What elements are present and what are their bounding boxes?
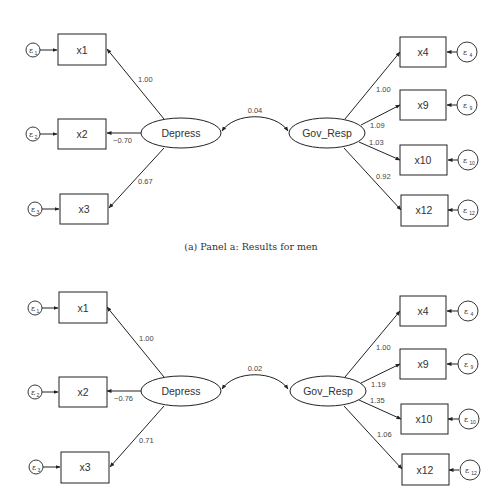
indicator-x12: x12 bbox=[401, 195, 448, 226]
svg-text:1: 1 bbox=[35, 50, 38, 56]
svg-text:x9: x9 bbox=[417, 358, 428, 370]
svg-text:12: 12 bbox=[469, 210, 475, 216]
indicator-x4: x4 bbox=[400, 296, 446, 326]
svg-text:9: 9 bbox=[470, 105, 473, 111]
svg-text:x12: x12 bbox=[417, 464, 434, 476]
svg-text:ε: ε bbox=[464, 415, 468, 424]
loading-x4: 1.00 bbox=[376, 85, 391, 94]
path-depress-x3 bbox=[109, 148, 164, 208]
error-e9: ε 9 bbox=[457, 95, 477, 115]
indicator-x3: x3 bbox=[60, 194, 108, 224]
error-e2: ε 2 bbox=[28, 385, 42, 399]
svg-text:ε: ε bbox=[463, 101, 467, 110]
svg-text:x2: x2 bbox=[77, 386, 88, 398]
indicator-x9: x9 bbox=[400, 349, 446, 379]
loading-x12: 0.92 bbox=[376, 172, 391, 181]
svg-text:4: 4 bbox=[470, 52, 473, 58]
panel-a-caption: (a) Panel a: Results for men bbox=[184, 241, 317, 252]
loading-x3: 0.67 bbox=[138, 177, 153, 186]
indicator-x10: x10 bbox=[400, 145, 447, 175]
latent-gov-resp-label: Gov_Resp bbox=[302, 127, 352, 139]
error-e4: ε 4 bbox=[458, 301, 478, 321]
svg-text:ε: ε bbox=[31, 388, 35, 397]
covariance-value: 0.02 bbox=[248, 364, 263, 373]
svg-text:9: 9 bbox=[471, 364, 474, 370]
loading-x2: −0.70 bbox=[113, 136, 132, 145]
error-e12: ε 12 bbox=[460, 460, 480, 480]
svg-text:10: 10 bbox=[470, 419, 476, 425]
path-depress-x1 bbox=[107, 49, 164, 119]
indicator-x10: x10 bbox=[401, 404, 448, 434]
latent-depress: Depress bbox=[141, 376, 221, 406]
svg-text:ε: ε bbox=[464, 307, 468, 316]
indicator-x1: x1 bbox=[59, 292, 107, 323]
svg-text:2: 2 bbox=[37, 392, 40, 398]
loading-x1: 1.00 bbox=[139, 334, 154, 343]
svg-text:x2: x2 bbox=[76, 128, 87, 140]
svg-text:x9: x9 bbox=[417, 99, 428, 111]
loading-x10: 1.03 bbox=[369, 138, 384, 147]
svg-text:3: 3 bbox=[38, 467, 41, 473]
path-depress-x1 bbox=[107, 307, 164, 377]
svg-text:10: 10 bbox=[469, 160, 475, 166]
indicator-x9: x9 bbox=[400, 90, 446, 120]
loading-x4: 1.00 bbox=[376, 343, 391, 352]
svg-text:x1: x1 bbox=[77, 302, 88, 314]
loading-x9: 1.09 bbox=[370, 121, 385, 130]
latent-gov-resp: Gov_Resp bbox=[290, 376, 366, 406]
error-e4: ε 4 bbox=[457, 42, 477, 62]
svg-text:1: 1 bbox=[37, 308, 40, 314]
svg-text:ε: ε bbox=[464, 360, 468, 369]
error-e10: ε 10 bbox=[459, 409, 479, 429]
svg-text:ε: ε bbox=[31, 304, 35, 313]
svg-text:2: 2 bbox=[35, 134, 38, 140]
error-e1: ε 1 bbox=[26, 43, 40, 57]
svg-text:ε: ε bbox=[31, 205, 35, 214]
svg-text:ε: ε bbox=[463, 48, 467, 57]
error-e2: ε 2 bbox=[26, 127, 40, 141]
indicator-x12: x12 bbox=[402, 454, 449, 485]
svg-text:ε: ε bbox=[463, 206, 467, 215]
sem-diagram-canvas: 0.04 Depress Gov_Resp x1 x2 x3 bbox=[0, 0, 502, 499]
covariance-arc bbox=[222, 117, 288, 131]
loading-x9: 1.19 bbox=[371, 380, 386, 389]
svg-text:ε: ε bbox=[32, 463, 36, 472]
indicator-x2: x2 bbox=[58, 119, 106, 149]
loading-x1: 1.00 bbox=[138, 75, 153, 84]
path-govresp-x4 bbox=[345, 311, 400, 377]
error-e3: ε 3 bbox=[28, 202, 42, 216]
error-e1: ε 1 bbox=[28, 301, 42, 315]
error-e3: ε 3 bbox=[29, 460, 43, 474]
panel-b: 0.02 Depress Gov_Resp x1 x2 x3 bbox=[28, 292, 480, 485]
error-e10: ε 10 bbox=[458, 150, 478, 170]
loading-x3: 0.71 bbox=[139, 436, 154, 445]
loading-x2: −0.76 bbox=[114, 394, 133, 403]
svg-text:12: 12 bbox=[471, 470, 477, 476]
indicator-x3: x3 bbox=[61, 452, 109, 483]
svg-text:x3: x3 bbox=[78, 203, 89, 215]
covariance-arc bbox=[222, 375, 288, 389]
error-e9: ε 9 bbox=[458, 354, 478, 374]
latent-depress: Depress bbox=[141, 118, 221, 148]
svg-text:ε: ε bbox=[29, 130, 33, 139]
loading-x10: 1.35 bbox=[370, 396, 385, 405]
latent-depress-label: Depress bbox=[161, 127, 200, 139]
svg-text:ε: ε bbox=[463, 156, 467, 165]
path-depress-x3 bbox=[110, 406, 164, 467]
svg-text:x4: x4 bbox=[417, 305, 428, 317]
svg-text:4: 4 bbox=[471, 311, 474, 317]
svg-text:ε: ε bbox=[29, 46, 33, 55]
panel-a: 0.04 Depress Gov_Resp x1 x2 x3 bbox=[26, 34, 478, 252]
svg-text:x1: x1 bbox=[76, 44, 87, 56]
latent-depress-label: Depress bbox=[161, 385, 200, 397]
svg-text:x4: x4 bbox=[417, 46, 428, 58]
indicator-x2: x2 bbox=[59, 377, 107, 407]
svg-text:x3: x3 bbox=[79, 461, 90, 473]
error-e12: ε 12 bbox=[458, 200, 478, 220]
svg-text:x10: x10 bbox=[416, 413, 433, 425]
loading-x12: 1.06 bbox=[377, 430, 392, 439]
svg-text:3: 3 bbox=[37, 209, 40, 215]
latent-gov-resp: Gov_Resp bbox=[289, 118, 365, 148]
indicator-x4: x4 bbox=[400, 37, 446, 67]
path-govresp-x12 bbox=[344, 148, 401, 210]
